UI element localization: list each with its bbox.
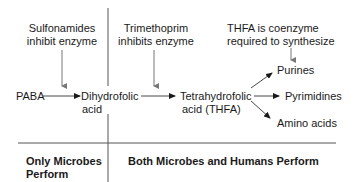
dhf-line2: acid [81,103,138,116]
dhf-line1: Dihydrofolic [81,90,138,103]
trimethoprim-line2: inhibits enzyme [118,35,194,48]
region-label-both: Both Microbes and Humans Perform [128,155,319,168]
sulfonamides-label: Sulfonamides inhibit enzyme [26,22,98,47]
output-pyrimidines: Pyrimidines [285,90,342,103]
region-left-line2: Perform [26,168,102,181]
node-paba: PABA [16,90,45,103]
output-amino-acids: Amino acids [277,117,337,130]
trimethoprim-line1: Trimethoprim [118,22,194,35]
node-dihydrofolic-acid: Dihydrofolic acid [81,90,138,115]
region-left-line1: Only Microbes [26,155,102,168]
output-purines: Purines [277,64,314,77]
region-label-only-microbes: Only Microbes Perform [26,155,102,181]
coenzyme-note: THFA is coenzyme required to synthesize [227,22,335,47]
thf-line1: Tetrahydrofolic [180,90,252,103]
thf-to-aminoacids-arrow-icon [251,101,270,118]
thf-line2: acid (THFA) [180,103,252,116]
thf-to-purines-arrow-icon [251,73,272,88]
coenzyme-note-line1: THFA is coenzyme [227,22,335,35]
node-tetrahydrofolic-acid: Tetrahydrofolic acid (THFA) [180,90,252,115]
trimethoprim-label: Trimethoprim inhibits enzyme [118,22,194,47]
sulfonamides-line2: inhibit enzyme [26,35,98,48]
coenzyme-note-line2: required to synthesize [227,35,335,48]
sulfonamides-line1: Sulfonamides [26,22,98,35]
